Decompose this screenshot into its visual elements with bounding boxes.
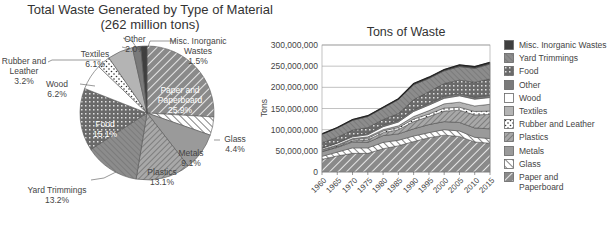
legend-item-metals: Metals	[504, 146, 544, 157]
area-chart-series	[322, 62, 490, 172]
y-tick-label: 100,000,000	[256, 125, 318, 135]
pie-label-textiles: Textiles 6.1%	[78, 49, 112, 69]
area-chart-title: Tons of Waste	[322, 25, 490, 39]
legend-item-textiles: Textiles	[504, 106, 547, 117]
pie-label-other: Other 2.0%	[120, 34, 150, 54]
y-tick-label: 300,000,000	[256, 40, 318, 50]
label-pct: 25.9%	[150, 105, 210, 115]
label-pct: 2.0%	[120, 44, 150, 54]
legend-label: Yard Trimmings	[519, 53, 578, 63]
legend-item-wood: Wood	[504, 93, 541, 104]
legend-label: Wood	[519, 93, 541, 103]
label-pct: 9.1%	[172, 158, 210, 168]
label-pct: 6.1%	[78, 59, 112, 69]
legend-label: Textiles	[519, 106, 547, 116]
legend-item-misc: Misc. Inorganic Wastes	[504, 40, 607, 51]
legend-swatch-paper	[504, 172, 514, 182]
legend-swatch-rubber	[504, 119, 514, 129]
legend-swatch-plastics	[504, 132, 514, 142]
label-line: Paper and	[150, 85, 210, 95]
legend-item-paper: Paper andPaperboard	[504, 172, 563, 183]
pie-label-yard: Yard Trimmings 13.2%	[24, 185, 90, 205]
label-pct: 4.4%	[220, 144, 250, 154]
label-line: Misc. Inorganic	[168, 36, 228, 46]
label-line: Metals	[172, 148, 210, 158]
label-line: Other	[120, 34, 150, 44]
legend-swatch-other	[504, 80, 514, 90]
label-line: Wastes	[168, 46, 228, 56]
label-line: Plastics	[144, 167, 180, 177]
legend-swatch-misc	[504, 40, 514, 50]
pie-label-wood: Wood 6.2%	[40, 79, 74, 99]
label-line: Leather	[0, 66, 48, 76]
label-line: Rubber and	[0, 56, 48, 66]
legend-item-food: Food	[504, 66, 538, 77]
legend-swatch-metals	[504, 146, 514, 156]
label-pct: 13.2%	[24, 195, 90, 205]
legend-swatch-textiles	[504, 106, 514, 116]
legend-swatch-glass	[504, 159, 514, 169]
legend-swatch-food	[504, 66, 514, 76]
pie-label-paper: Paper and Paperboard 25.9%	[150, 85, 210, 115]
y-tick-label: 50,000,000	[256, 146, 318, 156]
legend-swatch-yard	[504, 53, 514, 63]
pie-label-misc: Misc. Inorganic Wastes 1.5%	[168, 36, 228, 66]
legend-item-yard: Yard Trimmings	[504, 53, 578, 64]
label-line: Glass	[220, 134, 250, 144]
label-pct: 13.1%	[144, 177, 180, 187]
pie-label-food: Food 15.1%	[83, 119, 127, 139]
label-pct: 1.5%	[168, 56, 228, 66]
legend-item-other: Other	[504, 80, 540, 91]
legend-label: Glass	[519, 159, 541, 169]
pie-label-metals: Metals 9.1%	[172, 148, 210, 168]
legend-swatch-wood	[504, 93, 514, 103]
label-line: Paperboard	[150, 95, 210, 105]
legend-item-rubber: Rubber and Leather	[504, 119, 595, 130]
legend-label: Metals	[519, 146, 544, 156]
y-tick-label: 0	[256, 167, 318, 177]
legend-label: Paper andPaperboard	[519, 172, 563, 192]
legend-label: Rubber and Leather	[519, 119, 595, 129]
label-line: Food	[83, 119, 127, 129]
legend-label: Other	[519, 80, 540, 90]
legend-label: Food	[519, 66, 538, 76]
label-line: Yard Trimmings	[24, 185, 90, 195]
y-tick-label: 200,000,000	[256, 82, 318, 92]
label-pct: 6.2%	[40, 89, 74, 99]
pie-label-glass: Glass 4.4%	[220, 134, 250, 154]
label-pct: 15.1%	[83, 129, 127, 139]
legend-label: Misc. Inorganic Wastes	[519, 40, 607, 50]
legend-item-plastics: Plastics	[504, 132, 548, 143]
pie-label-plastics: Plastics 13.1%	[144, 167, 180, 187]
y-tick-label: 150,000,000	[256, 104, 318, 114]
y-tick-label: 250,000,000	[256, 61, 318, 71]
legend-item-glass: Glass	[504, 159, 541, 170]
label-line: Textiles	[78, 49, 112, 59]
legend-label: Plastics	[519, 132, 548, 142]
label-line: Wood	[40, 79, 74, 89]
